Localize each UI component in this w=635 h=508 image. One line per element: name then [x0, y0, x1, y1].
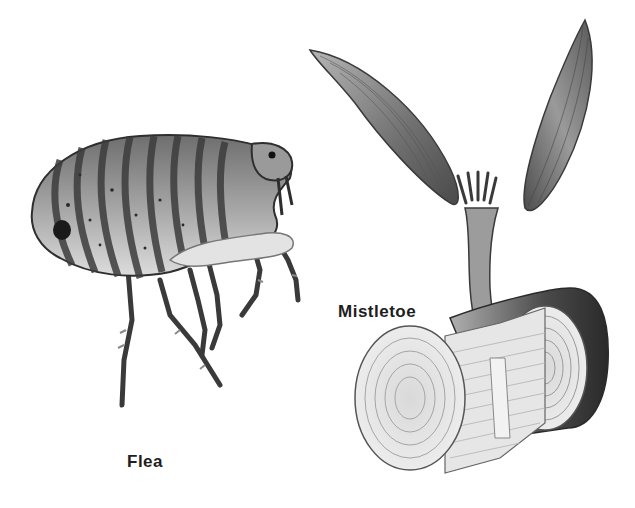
flea-illustration — [20, 130, 320, 415]
branch-left-face — [355, 326, 465, 470]
mistletoe-drawing — [300, 18, 620, 488]
mistletoe-label: Mistletoe — [338, 302, 416, 322]
flea-leg-hairs — [118, 275, 297, 369]
flea-drawing — [20, 130, 320, 415]
mistletoe-illustration — [300, 18, 620, 488]
flea-label: Flea — [127, 452, 163, 472]
mistletoe-buds — [458, 172, 496, 203]
mistletoe-right-leaf — [524, 20, 592, 211]
flea-eye — [269, 152, 276, 159]
mistletoe-left-leaf — [310, 50, 458, 205]
flea-spot — [53, 220, 71, 240]
